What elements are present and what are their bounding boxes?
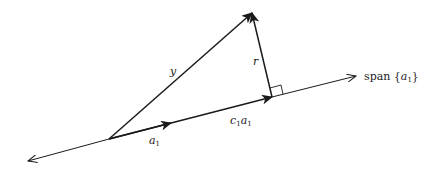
label-y: y <box>169 65 177 78</box>
label-a1: a1 <box>149 134 160 148</box>
label-a1-sub: 1 <box>156 140 160 148</box>
label-span-prefix: span <box>364 70 394 83</box>
label-span-open: { <box>394 70 401 83</box>
label-span-close: } <box>412 70 419 83</box>
label-span: span {a1} <box>364 70 419 84</box>
span-line-back <box>28 139 109 161</box>
span-line-forward <box>272 76 356 97</box>
label-c1a1-a-sub: 1 <box>247 120 251 128</box>
projection-diagram: y r a1 c1a1 span {a1} <box>0 0 433 172</box>
right-angle-marker <box>270 85 283 94</box>
label-c1a1: c1a1 <box>230 114 252 128</box>
label-r: r <box>253 55 259 68</box>
